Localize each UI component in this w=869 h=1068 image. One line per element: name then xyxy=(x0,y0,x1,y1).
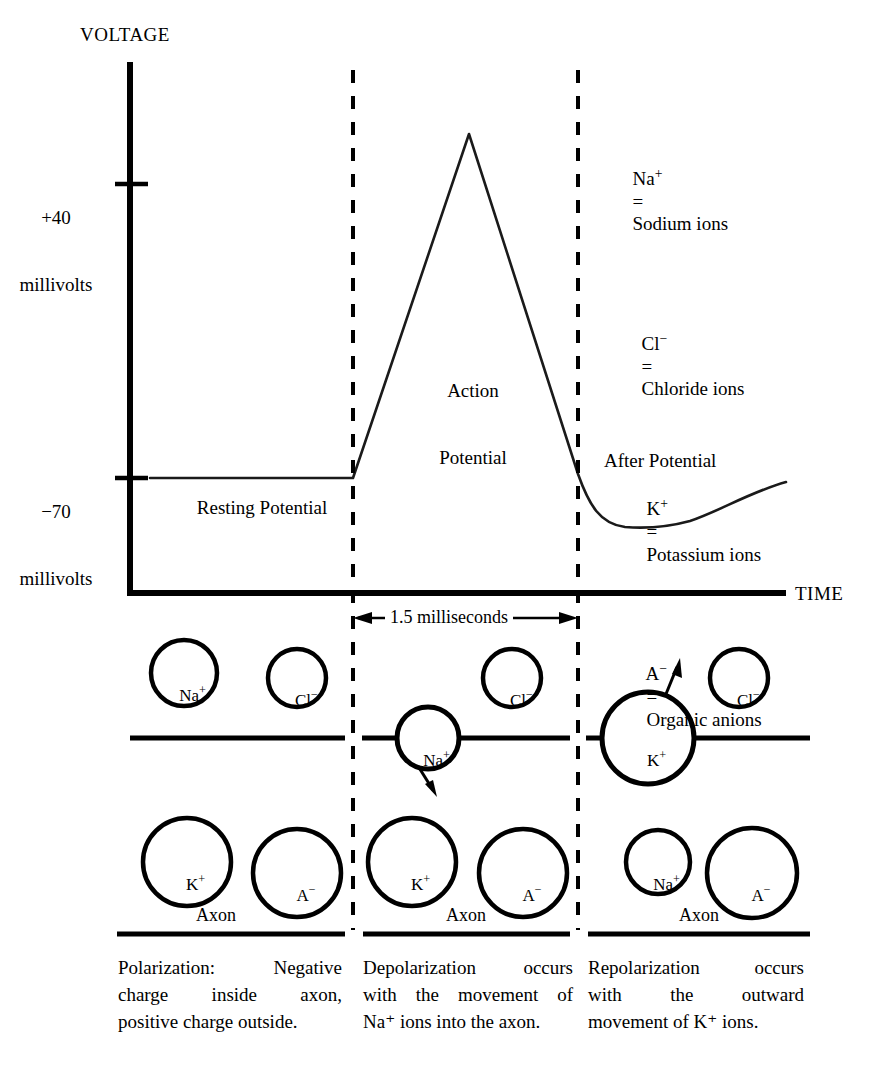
legend-charge-k: + xyxy=(660,496,668,511)
y-tick-label-minus-70: −70 millivolts xyxy=(0,456,112,635)
action-potential-label: Action Potential xyxy=(418,335,528,514)
ion-symbol: K xyxy=(647,751,659,770)
tick-value-minus-70: −70 xyxy=(0,501,112,523)
legend-equals-2: = xyxy=(647,521,658,542)
ion-symbol: A xyxy=(522,886,534,905)
caption-polarization: Polarization: Negative charge inside axo… xyxy=(118,955,342,1036)
caption-line: Polarization: Negative xyxy=(118,955,342,982)
legend-row-potassium: K+ = Potassium ions xyxy=(604,474,854,588)
ion-charge: + xyxy=(673,872,680,886)
legend-equals-0: = xyxy=(633,191,644,212)
legend-charge-a: − xyxy=(659,661,667,676)
caption-line: Depolarization occurs xyxy=(363,955,573,982)
y-axis-title: VOLTAGE xyxy=(80,24,170,46)
caption-repolarization: Repolarization occurs with the outward m… xyxy=(588,955,804,1036)
legend-row-sodium: Na+ = Sodium ions xyxy=(604,144,854,258)
legend-name-sodium: Sodium ions xyxy=(633,213,729,234)
ion-symbol: Na xyxy=(653,875,673,894)
caption-line: positive charge outside. xyxy=(118,1009,342,1036)
action-potential-label-line1: Action xyxy=(418,380,528,402)
legend-equals-3: = xyxy=(647,686,658,707)
ion-symbol: Cl xyxy=(510,691,526,710)
ion-label-a-in-p1: A− xyxy=(270,863,326,926)
resting-potential-label: Resting Potential xyxy=(172,497,352,519)
ion-charge: + xyxy=(198,872,205,886)
ion-charge: − xyxy=(311,688,318,702)
ion-symbol: Na xyxy=(423,751,443,770)
tick-unit-minus-70: millivolts xyxy=(0,568,112,590)
ion-label-na-membrane-p2: Na+ xyxy=(398,728,458,791)
legend-charge-na: + xyxy=(655,166,663,181)
ion-charge: + xyxy=(443,748,450,762)
caption-line: Na⁺ ions into the axon. xyxy=(363,1009,573,1036)
ion-charge: − xyxy=(753,688,760,702)
ion-label-cl-out-p2: Cl− xyxy=(485,668,541,731)
caption-line: movement of K⁺ ions. xyxy=(588,1009,804,1036)
y-tick-label-plus-40: +40 millivolts xyxy=(0,162,112,341)
ion-charge: + xyxy=(199,683,206,697)
legend-name-potassium: Potassium ions xyxy=(647,544,762,565)
ion-label-cl-out-p3: Cl− xyxy=(712,668,768,731)
legend-symbol-na: Na xyxy=(633,168,655,189)
action-potential-label-line2: Potential xyxy=(418,447,528,469)
ion-label-na-out-p1: Na+ xyxy=(154,663,214,726)
legend-equals-1: = xyxy=(642,356,653,377)
ion-symbol: Na xyxy=(179,686,199,705)
ion-symbol: A xyxy=(751,886,763,905)
ion-label-k-membrane-p3: K+ xyxy=(620,728,676,791)
axon-label-p1: Axon xyxy=(171,905,261,926)
axon-label-p3: Axon xyxy=(654,905,744,926)
legend-symbol-k: K xyxy=(647,499,661,520)
ion-symbol: K xyxy=(186,875,198,894)
ion-label-cl-out-p1: Cl− xyxy=(270,668,326,731)
legend-charge-cl: − xyxy=(659,331,667,346)
legend-symbol-a: A xyxy=(645,664,659,685)
caption-line: with the movement of xyxy=(363,982,573,1009)
ion-charge: − xyxy=(764,883,771,897)
caption-line: Repolarization occurs xyxy=(588,955,804,982)
caption-depolarization: Depolarization occurs with the movement … xyxy=(363,955,573,1036)
ion-charge: − xyxy=(309,883,316,897)
axon-label-p2: Axon xyxy=(421,905,511,926)
ion-charge: + xyxy=(659,748,666,762)
ion-symbol: K xyxy=(411,875,423,894)
action-potential-figure: VOLTAGE TIME +40 millivolts −70 millivol… xyxy=(0,0,869,1068)
caption-line: charge inside axon, xyxy=(118,982,342,1009)
duration-label: 1.5 milliseconds xyxy=(385,607,513,628)
ion-symbol: Cl xyxy=(737,691,753,710)
ion-charge: + xyxy=(423,872,430,886)
legend-row-chloride: Cl− = Chloride ions xyxy=(604,309,854,423)
ion-symbol: Cl xyxy=(295,691,311,710)
legend-symbol-cl: Cl xyxy=(642,334,660,355)
ion-charge: − xyxy=(526,688,533,702)
ion-charge: − xyxy=(535,883,542,897)
ion-symbol: A xyxy=(296,886,308,905)
caption-line: with the outward xyxy=(588,982,804,1009)
tick-unit-plus-40: millivolts xyxy=(0,274,112,296)
tick-value-plus-40: +40 xyxy=(0,207,112,229)
legend-name-chloride: Chloride ions xyxy=(642,378,745,399)
